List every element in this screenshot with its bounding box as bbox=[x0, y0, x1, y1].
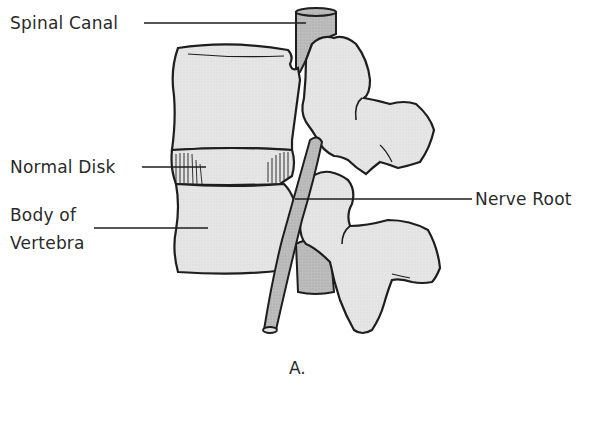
figure-caption: A. bbox=[289, 358, 306, 378]
label-spinal-canal: Spinal Canal bbox=[10, 13, 118, 33]
lower-vertebral-body bbox=[174, 184, 294, 274]
upper-vertebra-processes bbox=[302, 37, 434, 174]
label-normal-disk: Normal Disk bbox=[10, 157, 116, 177]
upper-vertebral-body bbox=[172, 44, 300, 150]
lower-vertebra-processes bbox=[300, 172, 440, 333]
label-body-of-vertebra-line1: Body of bbox=[10, 205, 76, 225]
label-nerve-root: Nerve Root bbox=[475, 189, 572, 209]
label-body-of-vertebra-line2: Vertebra bbox=[10, 233, 85, 253]
